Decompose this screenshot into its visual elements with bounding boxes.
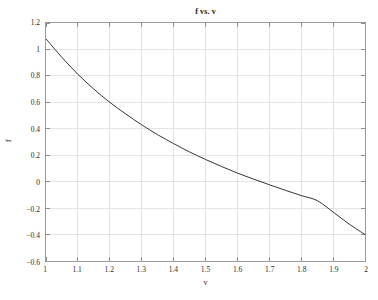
y-tick-label: 0.2 xyxy=(31,151,40,160)
x-tick-label: 1.1 xyxy=(72,265,81,274)
x-tick-label: 1.2 xyxy=(105,265,114,274)
x-tick-label: 1.3 xyxy=(137,265,146,274)
plot-area xyxy=(45,22,366,262)
y-axis-label: f xyxy=(4,139,13,142)
x-tick-label: 1.8 xyxy=(297,265,306,274)
y-tick-label: −0.6 xyxy=(26,258,40,267)
y-tick-label: 0 xyxy=(36,178,40,187)
data-curve xyxy=(46,23,365,261)
x-tick-label: 1.4 xyxy=(169,265,178,274)
y-tick-label: 0.8 xyxy=(31,71,40,80)
x-tick-label: 1.6 xyxy=(233,265,242,274)
x-tick-label: 1.7 xyxy=(265,265,274,274)
y-tick-label: 0.4 xyxy=(31,124,40,133)
x-tick-label: 1.5 xyxy=(201,265,210,274)
x-tick-label: 2 xyxy=(364,265,368,274)
x-axis-label: v xyxy=(45,278,366,287)
y-tick-label: −0.4 xyxy=(26,231,40,240)
y-tick-label: 0.6 xyxy=(31,98,40,107)
y-tick-label: 1 xyxy=(36,44,40,53)
y-tick-label: 1.2 xyxy=(31,18,40,27)
chart-title: f vs. v xyxy=(45,7,366,16)
x-tick-label: 1.9 xyxy=(329,265,338,274)
x-tick-label: 1 xyxy=(43,265,47,274)
y-tick-label: −0.2 xyxy=(26,204,40,213)
figure-canvas: f vs. v 1.210.80.60.40.20−0.2−0.4−0.6 11… xyxy=(0,0,378,300)
